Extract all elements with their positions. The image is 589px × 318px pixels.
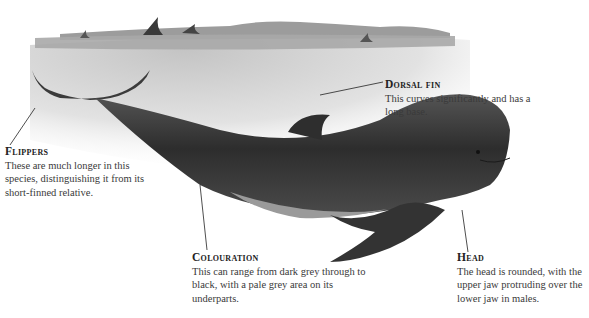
annotation-colouration: Colouration This can range from dark gre… xyxy=(192,251,372,305)
annotation-title: Flippers xyxy=(5,145,48,157)
colouration-leader-line xyxy=(200,185,207,250)
whale-eye xyxy=(476,150,480,154)
annotation-description: These are much longer in this species, d… xyxy=(5,159,155,200)
sea-surface xyxy=(35,17,455,50)
head-leader-line xyxy=(462,210,468,252)
annotation-title: Colouration xyxy=(192,251,259,263)
surface-dorsal-fin-1 xyxy=(143,17,163,35)
annotation-head: Head The head is rounded, with the upper… xyxy=(457,251,587,305)
annotation-description: The head is rounded, with the upper jaw … xyxy=(457,265,587,306)
annotation-title: Head xyxy=(457,251,484,263)
annotation-description: This can range from dark grey through to… xyxy=(192,265,372,306)
annotation-flippers: Flippers These are much longer in this s… xyxy=(5,145,155,199)
annotation-title: Dorsal fin xyxy=(385,78,441,90)
annotation-description: This curves significantly and has a long… xyxy=(385,92,550,119)
annotation-dorsal-fin: Dorsal fin This curves significantly and… xyxy=(385,78,550,119)
